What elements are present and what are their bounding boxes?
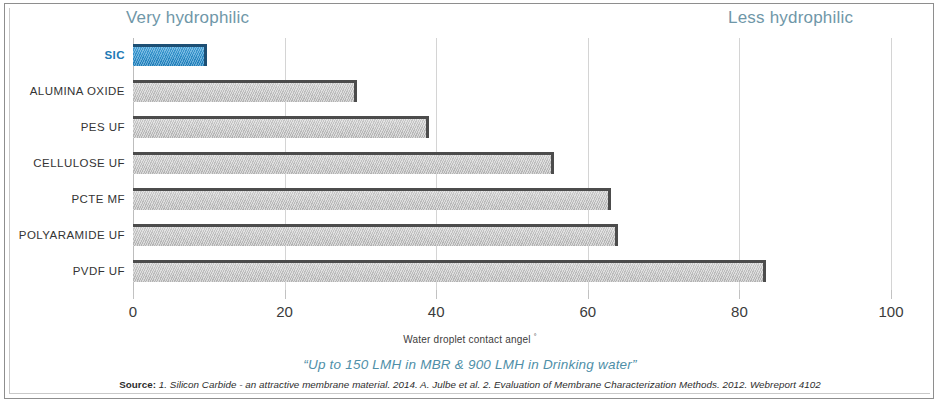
x-axis-tick-labels: 020406080100: [133, 303, 891, 323]
x-tick-80: [739, 290, 740, 299]
plot-area: [133, 38, 891, 290]
category-label-polyaramide-uf: POLYARAMIDE UF: [19, 229, 125, 241]
category-axis-labels: SICALUMINA OXIDEPES UFCELLULOSE UFPCTE M…: [0, 38, 125, 290]
category-label-pcte-mf: PCTE MF: [71, 193, 125, 205]
x-tick-20: [285, 290, 286, 299]
bar-pes-uf: [133, 116, 429, 138]
footer-tagline: “Up to 150 LMH in MBR & 900 LMH in Drink…: [0, 357, 940, 372]
bar-row: [133, 38, 891, 74]
x-tick-label-40: 40: [428, 303, 445, 320]
gridline-100: [891, 38, 892, 290]
x-axis-title: Water droplet contact angel °: [0, 333, 940, 345]
chart-page: Very hydrophilic Less hydrophilic SICALU…: [0, 0, 940, 403]
category-label-sic: SIC: [104, 49, 125, 61]
category-label-alumina-oxide: ALUMINA OXIDE: [30, 85, 125, 97]
x-tick-label-100: 100: [878, 303, 903, 320]
x-tick-0: [133, 290, 134, 299]
x-tick-label-0: 0: [129, 303, 137, 320]
degree-symbol: °: [534, 333, 537, 340]
x-tick-label-60: 60: [579, 303, 596, 320]
bar-pvdf-uf: [133, 260, 766, 282]
bar-polyaramide-uf: [133, 224, 618, 246]
bar-pcte-mf: [133, 188, 611, 210]
source-label: Source:: [119, 379, 156, 390]
category-label-pvdf-uf: PVDF UF: [73, 265, 125, 277]
source-text: 1. Silicon Carbide - an attractive membr…: [159, 379, 821, 390]
category-label-pes-uf: PES UF: [81, 121, 125, 133]
x-tick-label-80: 80: [731, 303, 748, 320]
bar-row: [133, 74, 891, 110]
x-tick-100: [891, 290, 892, 299]
bar-row: [133, 182, 891, 218]
x-tick-40: [436, 290, 437, 299]
x-tick-label-20: 20: [276, 303, 293, 320]
bar-row: [133, 146, 891, 182]
bar-row: [133, 110, 891, 146]
bar-row: [133, 218, 891, 254]
x-axis-ticks: [133, 290, 891, 300]
annotation-less-hydrophilic: Less hydrophilic: [728, 8, 853, 28]
x-tick-60: [588, 290, 589, 299]
bar-cellulose-uf: [133, 152, 554, 174]
annotation-very-hydrophilic: Very hydrophilic: [126, 8, 249, 28]
bar-alumina-oxide: [133, 80, 357, 102]
category-label-cellulose-uf: CELLULOSE UF: [33, 157, 125, 169]
bar-sic: [133, 44, 207, 66]
bar-row: [133, 254, 891, 290]
footer-source: Source: 1. Silicon Carbide - an attracti…: [0, 379, 940, 390]
